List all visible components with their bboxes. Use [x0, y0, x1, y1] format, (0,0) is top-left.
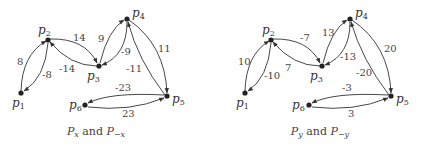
edge-label: 10 [238, 56, 251, 67]
node-label-p2: p2 [262, 23, 275, 38]
edge-label: 13 [322, 27, 335, 38]
node-label-p4: p4 [132, 6, 145, 21]
edge-label: 23 [122, 108, 135, 119]
node-p5 [388, 93, 393, 98]
edge-label: 9 [98, 33, 104, 44]
node-label-p1: p1 [12, 96, 25, 111]
node-p1 [18, 90, 23, 95]
diagram-canvas: p1 p2 p3 p4 p5 p6 8 -8 14 -14 9 -9 11 -1… [0, 0, 426, 146]
caption-px: Px and P−x [66, 125, 126, 139]
node-label-p6: p6 [292, 98, 305, 113]
edge-label: 7 [285, 62, 291, 73]
caption-py: Py and P−y [290, 125, 350, 139]
edge-p2-p1 [24, 43, 48, 91]
edge-label: -9 [121, 46, 131, 57]
node-p1 [242, 90, 247, 95]
edge-p2-p3 [273, 39, 320, 63]
edge-p6-p5 [312, 98, 388, 108]
node-label-p3: p3 [310, 69, 323, 84]
graph-py: p1 p2 p3 p4 p5 p6 10 -10 -7 7 13 -13 20 … [236, 6, 409, 139]
edge-label: -3 [342, 82, 352, 93]
edge-p2-p1 [248, 43, 271, 91]
node-label-p4: p4 [355, 6, 368, 21]
edge-p5-p4 [128, 22, 165, 95]
edge-label: -8 [42, 69, 52, 80]
edge-label: -7 [300, 32, 310, 43]
edge-p4-p5 [352, 20, 391, 93]
node-label-p5: p5 [172, 92, 185, 107]
node-label-p3: p3 [87, 69, 100, 84]
edge-label: 11 [158, 43, 171, 54]
edge-label: 8 [17, 56, 23, 67]
node-p6 [82, 102, 87, 107]
node-label-p1: p1 [236, 96, 249, 111]
edge-label: -23 [115, 82, 131, 93]
node-label-p6: p6 [69, 98, 82, 113]
edge-label: -14 [59, 63, 75, 74]
edge-p5-p4 [351, 22, 389, 95]
node-p5 [164, 93, 169, 98]
edge-p4-p5 [129, 20, 167, 93]
edge-label: -10 [264, 70, 280, 81]
node-p4 [347, 16, 352, 21]
edge-p3-p2 [273, 42, 320, 66]
node-p2 [268, 37, 273, 42]
graph-px: p1 p2 p3 p4 p5 p6 8 -8 14 -14 9 -9 11 -1… [12, 6, 185, 139]
edge-label: 20 [384, 43, 397, 54]
edge-label: -13 [340, 51, 356, 62]
node-p3 [96, 63, 101, 68]
edge-p6-p5 [88, 98, 164, 108]
node-p4 [124, 16, 129, 21]
edge-label: 14 [73, 32, 86, 43]
node-label-p2: p2 [38, 23, 51, 38]
edge-label: -20 [356, 67, 372, 78]
node-label-p5: p5 [396, 92, 409, 107]
node-p3 [319, 63, 324, 68]
edge-label: -11 [126, 63, 142, 74]
node-p6 [306, 102, 311, 107]
edge-label: 3 [348, 108, 354, 119]
node-p2 [45, 37, 50, 42]
